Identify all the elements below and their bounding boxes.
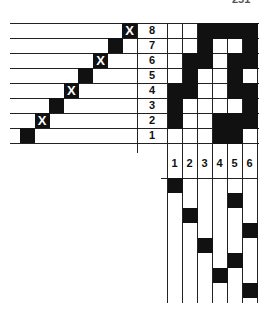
tieup-cell-filled xyxy=(168,98,183,114)
threading-solid-mark xyxy=(108,38,123,53)
tieup-cell-filled xyxy=(183,68,198,84)
tieup-cell-filled xyxy=(243,23,258,39)
tieup-cell-filled xyxy=(198,53,213,69)
treadling-mark xyxy=(213,268,228,283)
tieup-cell-filled xyxy=(243,38,258,54)
treadle-label: 4 xyxy=(212,148,227,178)
treadle-label: 1 xyxy=(167,148,182,178)
treadle-label: 3 xyxy=(197,148,212,178)
tieup-cell-filled xyxy=(243,53,258,69)
treadle-label: 6 xyxy=(242,148,257,178)
tieup-cell-filled xyxy=(243,83,258,99)
grid-line xyxy=(10,98,259,99)
tieup-cell-filled xyxy=(228,68,243,84)
treadling-mark xyxy=(243,283,258,298)
tieup-cell-filled xyxy=(213,128,228,144)
threading-x-mark: X xyxy=(122,23,137,38)
treadling-mark xyxy=(198,238,213,253)
treadling-mark xyxy=(228,193,243,208)
treadling-mark xyxy=(168,178,183,193)
shaft-label: 7 xyxy=(137,38,167,53)
treadle-label: 2 xyxy=(182,148,197,178)
treadle-label: 5 xyxy=(227,148,242,178)
treadling-mark xyxy=(243,223,258,238)
tieup-cell-filled xyxy=(198,38,213,54)
tieup-cell-filled xyxy=(183,53,198,69)
tieup-cell-filled xyxy=(243,113,258,129)
treadling-mark xyxy=(228,253,243,268)
tieup-cell-filled xyxy=(183,83,198,99)
tieup-cell-filled xyxy=(228,113,243,129)
tieup-cell-filled xyxy=(243,98,258,114)
shaft-label: 4 xyxy=(137,83,167,98)
threading-solid-mark xyxy=(78,68,93,83)
shaft-label: 5 xyxy=(137,68,167,83)
tieup-cell-filled xyxy=(213,113,228,129)
tieup-cell-filled xyxy=(198,23,213,39)
shaft-label: 6 xyxy=(137,53,167,68)
tieup-cell-filled xyxy=(228,83,243,99)
shaft-label: 1 xyxy=(137,128,167,143)
grid-line xyxy=(10,68,259,69)
tieup-cell-filled xyxy=(168,83,183,99)
threading-x-mark: X xyxy=(93,53,108,68)
shaft-label: 2 xyxy=(137,113,167,128)
treadling-mark xyxy=(183,208,198,223)
shaft-label: 8 xyxy=(137,23,167,38)
tieup-cell-filled xyxy=(213,23,228,39)
grid-line xyxy=(10,83,259,84)
threading-x-mark: X xyxy=(35,113,50,128)
tieup-cell-filled xyxy=(228,23,243,39)
threading-x-mark: X xyxy=(64,83,79,98)
tieup-cell-filled xyxy=(228,128,243,144)
tieup-cell-filled xyxy=(168,113,183,129)
page-number: 251 xyxy=(232,0,250,5)
grid-line xyxy=(10,53,259,54)
tieup-cell-filled xyxy=(228,53,243,69)
shaft-label: 3 xyxy=(137,98,167,113)
threading-solid-mark xyxy=(20,128,35,143)
threading-solid-mark xyxy=(49,98,64,113)
